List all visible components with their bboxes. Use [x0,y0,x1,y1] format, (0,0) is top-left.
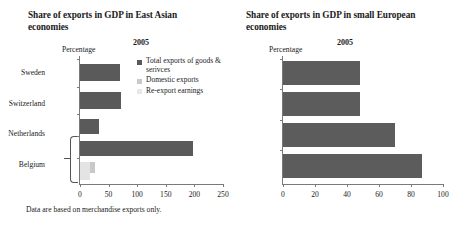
bar-hong-kong-reexport [80,162,90,180]
panel-title-east-asian: Share of exports in GDP in East Asian ec… [28,10,218,33]
y-tick [280,150,283,151]
x-tick [166,184,167,187]
x-tick [80,184,81,187]
y-tick [77,87,80,88]
x-tick-label: 40 [343,190,351,199]
x-tick-label: 60 [375,190,383,199]
category-label-netherlands: Netherlands [8,129,45,138]
x-tick-label: 150 [160,190,171,199]
hong-kong-group-brace [70,136,78,183]
x-tick-label: 100 [131,190,142,199]
x-tick [137,184,138,187]
panel-east-asian-economies: Share of exports in GDP in East Asian ec… [0,0,232,228]
axis-unit-label-left: Percentage [62,45,95,54]
x-tick [315,184,316,187]
plot-area-small-european: 0 20 40 60 80 100 [282,56,443,185]
footnote-text: Data are based on merchandise exports on… [26,205,162,214]
axis-unit-label-right: Percentage [269,45,302,54]
year-label-right: 2005 [337,38,353,47]
x-tick-label: 20 [311,190,319,199]
x-tick-label: 100 [437,190,448,199]
panel-small-european-economies: Share of exports in GDP in small Europea… [232,0,457,228]
x-tick [379,184,380,187]
x-tick [283,184,284,187]
y-tick [77,59,80,60]
hong-kong-brace-nub [64,158,70,159]
x-tick-label: 50 [105,190,113,199]
bar-asean-total [80,64,120,81]
x-tick-label: 200 [189,190,200,199]
y-tick [280,59,283,60]
x-tick [109,184,110,187]
bar-nie3-total [80,92,121,109]
plot-area-east-asian: 0 50 100 150 200 250 [79,56,223,185]
bar-belgium [283,154,422,178]
x-tick-label: 80 [407,190,415,199]
x-tick-label: 0 [281,190,285,199]
bar-netherlands [283,123,395,147]
y-tick [77,158,80,159]
figure-root: Share of exports in GDP in East Asian ec… [0,0,457,228]
y-tick [280,120,283,121]
category-label-belgium: Belgium [19,160,45,169]
x-tick [411,184,412,187]
x-tick [223,184,224,187]
y-tick [77,114,80,115]
panel-title-small-european: Share of exports in GDP in small Europea… [246,10,446,33]
bar-mainland-china-total [80,119,99,134]
x-tick [443,184,444,187]
x-tick [194,184,195,187]
y-tick [280,89,283,90]
bar-sweden [283,61,360,85]
x-tick-label: 0 [78,190,82,199]
y-tick [77,136,80,137]
bar-hong-kong-total [80,141,193,156]
category-label-sweden: Sweden [21,68,45,77]
x-tick-label: 250 [217,190,228,199]
x-tick [347,184,348,187]
bar-switzerland [283,92,360,116]
year-label-left: 2005 [133,38,149,47]
category-label-switzerland: Switzerland [9,99,45,108]
